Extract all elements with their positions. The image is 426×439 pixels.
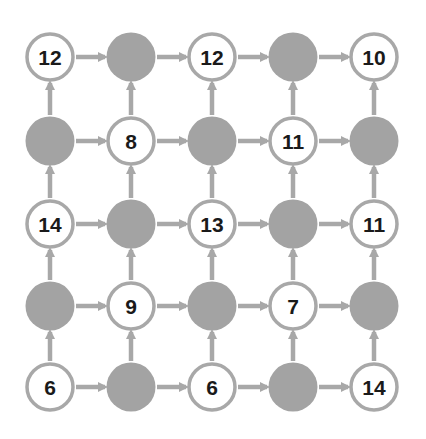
- number-node: 12: [189, 34, 235, 80]
- number-node: 6: [27, 364, 73, 410]
- number-node: 12: [27, 34, 73, 80]
- number-node: 7: [270, 283, 316, 329]
- node-value: 11: [363, 213, 386, 236]
- number-node: 6: [189, 364, 235, 410]
- grid-flow-diagram: 121210811141311976614: [0, 0, 426, 439]
- number-node: 11: [351, 201, 397, 247]
- filled-node: [188, 117, 237, 166]
- node-value: 9: [125, 295, 137, 318]
- node-value: 14: [38, 213, 62, 236]
- filled-node: [350, 117, 399, 166]
- node-circle: [107, 200, 156, 249]
- node-value: 10: [362, 46, 385, 69]
- filled-node: [269, 33, 318, 82]
- filled-node: [269, 363, 318, 412]
- number-node: 11: [270, 118, 316, 164]
- node-circle: [269, 200, 318, 249]
- node-value: 13: [200, 213, 223, 236]
- node-circle: [350, 282, 399, 331]
- filled-node: [107, 363, 156, 412]
- node-circle: [188, 117, 237, 166]
- number-node: 14: [27, 201, 73, 247]
- number-node: 13: [189, 201, 235, 247]
- filled-node: [350, 282, 399, 331]
- node-circle: [269, 363, 318, 412]
- filled-node: [26, 117, 75, 166]
- number-node: 8: [108, 118, 154, 164]
- number-node: 9: [108, 283, 154, 329]
- node-circle: [350, 117, 399, 166]
- node-value: 14: [362, 376, 386, 399]
- filled-node: [26, 282, 75, 331]
- node-value: 8: [125, 130, 137, 153]
- node-circle: [269, 33, 318, 82]
- node-value: 7: [287, 295, 299, 318]
- node-value: 11: [282, 130, 305, 153]
- node-value: 12: [38, 46, 61, 69]
- number-node: 14: [351, 364, 397, 410]
- number-node: 10: [351, 34, 397, 80]
- node-value: 12: [200, 46, 223, 69]
- node-circle: [188, 282, 237, 331]
- filled-node: [107, 200, 156, 249]
- node-value: 6: [44, 376, 56, 399]
- filled-node: [107, 33, 156, 82]
- filled-node: [269, 200, 318, 249]
- node-value: 6: [206, 376, 218, 399]
- node-circle: [107, 363, 156, 412]
- filled-node: [188, 282, 237, 331]
- node-circle: [26, 117, 75, 166]
- node-circle: [107, 33, 156, 82]
- node-circle: [26, 282, 75, 331]
